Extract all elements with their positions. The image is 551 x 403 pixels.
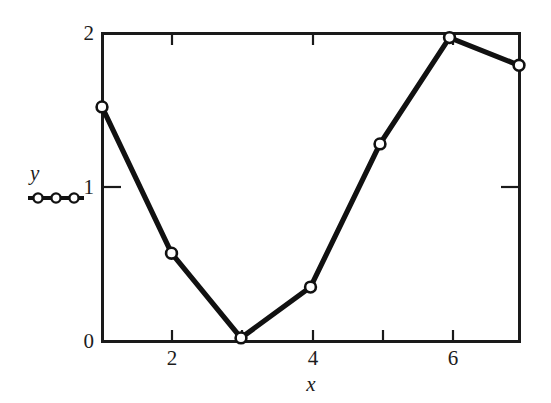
legend-series-label: y [30,163,39,184]
open-circle-marker [51,193,60,202]
open-circle-marker [33,193,42,202]
data-point-marker [97,102,108,113]
axes-frame [103,34,520,342]
data-point-marker [166,248,177,259]
data-point-marker [514,60,525,71]
data-point-marker [444,32,455,43]
y-tick-label-2: 2 [72,23,94,44]
chart-figure: y 2 1 0 2 4 6 x [0,0,551,403]
data-point-marker [375,139,386,150]
plot-frame-box [103,34,520,342]
x-tick-label-4: 4 [308,348,319,369]
data-markers-y [97,32,525,343]
x-tick-label-2: 2 [167,348,178,369]
x-tick-label-6: 6 [448,348,459,369]
y-tick-label-1: 1 [72,177,94,198]
y-tick-label-0: 0 [72,331,94,352]
axis-ticks [103,34,519,341]
data-point-marker [305,282,316,293]
data-series-y [97,32,525,343]
x-axis-title: x [306,374,315,395]
data-point-marker [236,333,247,344]
